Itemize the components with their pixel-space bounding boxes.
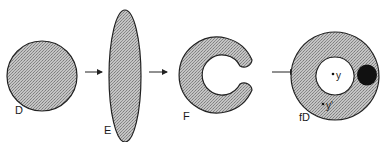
label-fd: fD	[299, 111, 310, 123]
shape-fd-annulus	[291, 32, 379, 120]
deformation-diagram: D E F y y' fD	[0, 0, 390, 142]
svg-text:y': y'	[326, 100, 333, 111]
point-y: y	[332, 70, 341, 81]
dark-blob	[357, 65, 377, 86]
shape-f-c-shape	[179, 37, 252, 113]
shape-d-disk	[7, 41, 77, 111]
label-f: F	[183, 110, 190, 122]
label-d: D	[15, 104, 23, 116]
label-e: E	[104, 124, 111, 136]
shape-e-ellipse	[109, 10, 141, 142]
svg-text:y: y	[336, 70, 341, 81]
